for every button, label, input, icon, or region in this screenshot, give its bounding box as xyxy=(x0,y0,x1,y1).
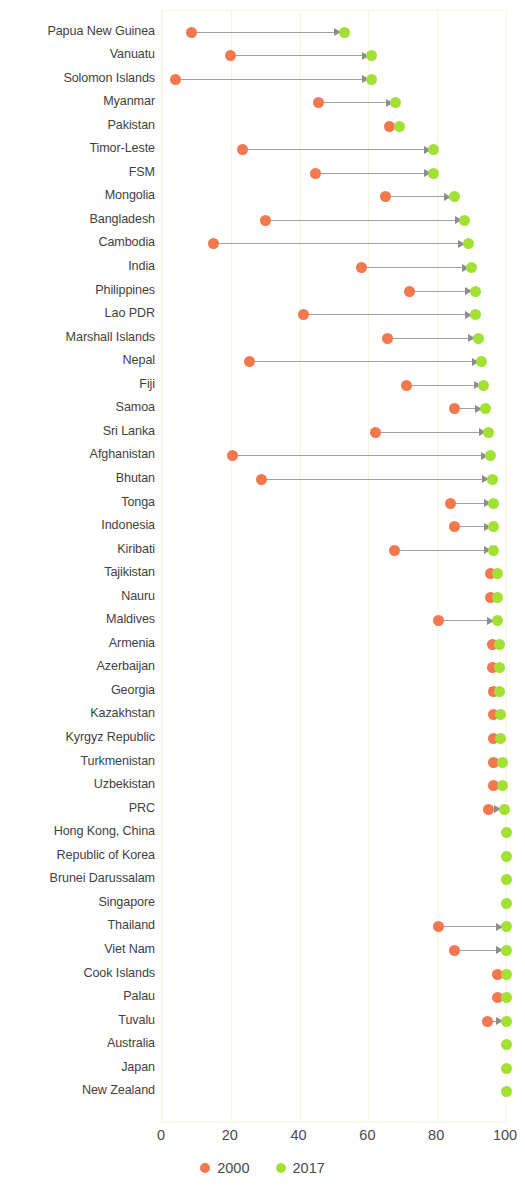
change-connector xyxy=(439,926,500,927)
data-point-2017 xyxy=(390,97,401,108)
data-point-2017 xyxy=(494,686,505,697)
category-label: Thailand xyxy=(0,919,155,932)
data-point-2000 xyxy=(356,262,367,273)
change-connector xyxy=(231,55,366,56)
change-connector xyxy=(176,79,366,80)
category-label: Kazakhstan xyxy=(0,707,155,720)
change-connector xyxy=(362,267,466,268)
data-point-2017 xyxy=(339,27,350,38)
category-label: Viet Nam xyxy=(0,943,155,956)
category-label: Armenia xyxy=(0,637,155,650)
legend-swatch-icon xyxy=(200,1163,210,1173)
data-point-2017 xyxy=(499,804,510,815)
category-label: Cambodia xyxy=(0,236,155,249)
data-point-2000 xyxy=(225,50,236,61)
chart-legend: 20002017 xyxy=(0,1160,525,1176)
data-point-2000 xyxy=(449,521,460,532)
data-point-2000 xyxy=(482,1016,493,1027)
change-connector xyxy=(243,149,428,150)
change-connector xyxy=(375,432,483,433)
data-point-2017 xyxy=(394,121,405,132)
category-label: Uzbekistan xyxy=(0,778,155,791)
gridline-40 xyxy=(300,11,301,1121)
data-point-2017 xyxy=(501,1063,512,1074)
data-point-2017 xyxy=(492,568,503,579)
category-label: New Zealand xyxy=(0,1084,155,1097)
data-point-2000 xyxy=(380,191,391,202)
data-point-2017 xyxy=(501,827,512,838)
x-tick-label: 20 xyxy=(222,1126,238,1144)
change-connector xyxy=(303,314,469,315)
gridline-0 xyxy=(162,11,163,1121)
data-point-2017 xyxy=(483,427,494,438)
category-label: Fiji xyxy=(0,378,155,391)
data-point-2000 xyxy=(298,309,309,320)
change-connector xyxy=(192,32,338,33)
legend-item[interactable]: 2017 xyxy=(276,1160,325,1176)
category-label: Bhutan xyxy=(0,472,155,485)
change-connector xyxy=(262,479,486,480)
data-point-2017 xyxy=(485,450,496,461)
change-connector xyxy=(233,455,485,456)
data-point-2017 xyxy=(366,74,377,85)
x-axis: 020406080100 xyxy=(0,1126,525,1150)
category-label: Philippines xyxy=(0,284,155,297)
category-label: FSM xyxy=(0,166,155,179)
data-point-2017 xyxy=(501,945,512,956)
category-label: Vanuatu xyxy=(0,48,155,61)
gridline-60 xyxy=(368,11,369,1121)
x-tick-label: 100 xyxy=(493,1126,517,1144)
data-point-2000 xyxy=(244,356,255,367)
data-point-2000 xyxy=(227,450,238,461)
data-point-2017 xyxy=(492,592,503,603)
change-connector xyxy=(315,173,428,174)
category-label: Bangladesh xyxy=(0,213,155,226)
data-point-2017 xyxy=(488,545,499,556)
data-point-2000 xyxy=(384,121,395,132)
x-tick-label: 40 xyxy=(291,1126,307,1144)
x-tick-label: 80 xyxy=(428,1126,444,1144)
category-label: Indonesia xyxy=(0,519,155,532)
data-point-2017 xyxy=(487,474,498,485)
x-tick-label: 0 xyxy=(157,1126,165,1144)
data-point-2000 xyxy=(483,804,494,815)
data-point-2000 xyxy=(313,97,324,108)
change-connector xyxy=(454,950,500,951)
plot-area xyxy=(161,10,507,1122)
data-point-2017 xyxy=(501,898,512,909)
data-point-2000 xyxy=(449,945,460,956)
data-point-2017 xyxy=(501,1039,512,1050)
category-label: Palau xyxy=(0,990,155,1003)
category-label: Cook Islands xyxy=(0,967,155,980)
change-connector xyxy=(394,550,488,551)
data-point-2017 xyxy=(501,1086,512,1097)
data-point-2000 xyxy=(433,615,444,626)
category-label: Kiribati xyxy=(0,543,155,556)
data-point-2000 xyxy=(310,168,321,179)
change-connector xyxy=(214,243,463,244)
data-point-2017 xyxy=(478,380,489,391)
data-point-2017 xyxy=(473,333,484,344)
data-point-2000 xyxy=(401,380,412,391)
data-point-2000 xyxy=(445,498,456,509)
data-point-2000 xyxy=(256,474,267,485)
data-point-2017 xyxy=(495,709,506,720)
category-label: Azerbaijan xyxy=(0,660,155,673)
data-point-2017 xyxy=(501,874,512,885)
data-point-2000 xyxy=(404,286,415,297)
data-point-2017 xyxy=(476,356,487,367)
data-point-2000 xyxy=(449,403,460,414)
change-connector xyxy=(406,385,477,386)
legend-label: 2017 xyxy=(293,1160,325,1176)
gridline-20 xyxy=(231,11,232,1121)
category-label: Australia xyxy=(0,1037,155,1050)
change-connector xyxy=(250,361,476,362)
dumbbell-chart: Papua New GuineaVanuatuSolomon IslandsMy… xyxy=(0,0,525,1190)
data-point-2017 xyxy=(501,1016,512,1027)
category-label: Lao PDR xyxy=(0,307,155,320)
change-connector xyxy=(265,220,459,221)
category-label: India xyxy=(0,260,155,273)
change-connector xyxy=(386,196,449,197)
change-connector xyxy=(387,338,472,339)
legend-item[interactable]: 2000 xyxy=(200,1160,249,1176)
